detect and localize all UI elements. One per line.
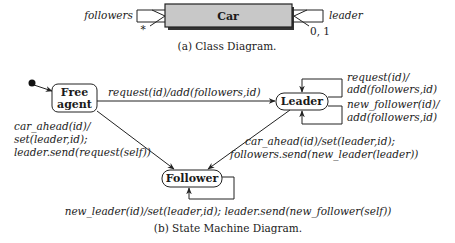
- transition-free-to-follower-label-3: leader.send(request(self)): [14, 146, 151, 158]
- state-follower-label: Follower: [166, 172, 219, 185]
- transition-leader-to-follower-label-2: followers.send(new_leader(leader)): [229, 148, 418, 161]
- leader-self-loop-1-label-1: request(id)/: [347, 71, 411, 83]
- state-leader-label: Leader: [281, 95, 324, 108]
- leader-self-loop-1-label-2: add(followers,id): [347, 83, 437, 95]
- transition-free-to-follower-label-2: set(leader,id);: [14, 133, 88, 145]
- followers-arrowhead: [150, 10, 165, 26]
- leader-multiplicity: 0, 1: [310, 25, 330, 37]
- class-diagram-caption: (a) Class Diagram.: [178, 40, 277, 52]
- followers-role-label: followers: [83, 9, 133, 21]
- state-machine-caption: (b) State Machine Diagram.: [154, 222, 302, 234]
- car-class-name: Car: [217, 10, 239, 23]
- transition-free-to-leader-label: request(id)/add(followers,id): [108, 86, 261, 98]
- leader-self-loop-2-label-1: new_follower(id)/: [347, 98, 441, 111]
- followers-multiplicity: *: [140, 23, 146, 35]
- transition-free-to-follower-label-1: car_ahead(id)/: [14, 120, 92, 133]
- leader-association: [292, 10, 323, 22]
- transition-free-to-follower: [97, 111, 174, 169]
- initial-transition: [34, 85, 52, 91]
- diagram-canvas: Car followers * leader 0, 1 (a) Class Di…: [0, 0, 455, 243]
- class-diagram: Car followers * leader 0, 1 (a) Class Di…: [83, 4, 364, 52]
- leader-arrowhead: [294, 10, 309, 26]
- follower-self-loop-label: new_leader(id)/set(leader,id); leader.se…: [65, 205, 392, 218]
- followers-association: [137, 10, 165, 22]
- state-free-agent-label-2: agent: [57, 98, 93, 111]
- leader-self-loop-2-label-2: add(followers,id): [347, 111, 437, 123]
- leader-role-label: leader: [329, 9, 364, 21]
- transition-leader-to-follower-label-1: car_ahead(id)/set(leader,id);: [245, 135, 395, 148]
- state-machine-diagram: Free agent Leader Follower request(id)/a…: [14, 71, 441, 234]
